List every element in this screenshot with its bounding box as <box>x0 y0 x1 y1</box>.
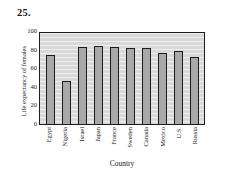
x-tick-label: Russia <box>192 127 199 144</box>
bar <box>158 53 167 124</box>
x-tick-slot: Sweden <box>122 126 138 160</box>
x-tick-slot: Egypt <box>41 126 57 160</box>
bar <box>94 46 103 124</box>
y-tick-label: 80 <box>19 47 37 54</box>
bar-slot <box>170 33 186 124</box>
x-tick-label: Japan <box>94 127 101 142</box>
y-tick-label: 20 <box>19 102 37 109</box>
y-axis-tick-labels: 020406080100 <box>18 0 37 175</box>
x-tick-label: Canada <box>143 127 150 147</box>
x-tick-slot: Canada <box>138 126 154 160</box>
bar-slot <box>42 33 58 124</box>
bar <box>126 48 135 124</box>
bar-slot <box>90 33 106 124</box>
bar-slot <box>58 33 74 124</box>
x-tick-label: Nigeria <box>62 127 69 147</box>
x-tick-slot: Nigeria <box>57 126 73 160</box>
y-tick-label: 60 <box>19 65 37 72</box>
bar <box>78 47 87 124</box>
x-tick-slot: Mexico <box>154 126 170 160</box>
bar-slot <box>106 33 122 124</box>
bar <box>190 57 199 124</box>
bar <box>46 55 55 124</box>
x-tick-slot: Japan <box>90 126 106 160</box>
bar-chart-figure: 25. Life expectancy of females 020406080… <box>0 0 230 175</box>
x-tick-slot: France <box>106 126 122 160</box>
x-tick-label: France <box>111 127 118 145</box>
bar-slot <box>186 33 202 124</box>
y-tick-label: 100 <box>19 28 37 35</box>
plot-area <box>39 32 205 125</box>
y-tick-label: 0 <box>19 121 37 128</box>
bar <box>62 81 71 124</box>
bar-slot <box>74 33 90 124</box>
bar-series <box>40 33 204 124</box>
y-tick-label: 40 <box>19 84 37 91</box>
x-tick-slot: Russia <box>187 126 203 160</box>
x-tick-label: Egypt <box>46 127 53 143</box>
x-axis-tick-labels: EgyptNigeriaIsraelJapanFranceSwedenCanad… <box>39 126 205 160</box>
bar-slot <box>122 33 138 124</box>
x-axis-label: Country <box>39 160 205 168</box>
x-tick-label: Israel <box>78 127 85 141</box>
bar <box>174 51 183 124</box>
x-tick-label: U.S. <box>175 127 182 139</box>
x-tick-slot: Israel <box>73 126 89 160</box>
x-tick-label: Mexico <box>159 127 166 147</box>
bar <box>110 47 119 124</box>
x-tick-label: Sweden <box>127 127 134 148</box>
bar-slot <box>154 33 170 124</box>
bar <box>142 48 151 124</box>
bar-slot <box>138 33 154 124</box>
x-tick-slot: U.S. <box>171 126 187 160</box>
